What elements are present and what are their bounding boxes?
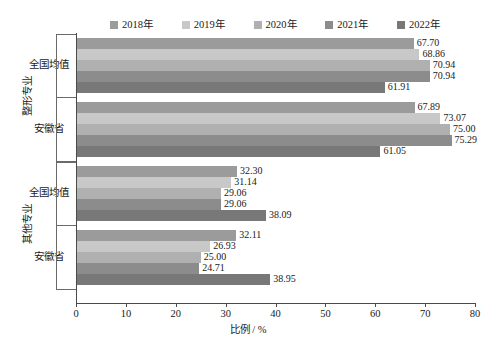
legend-swatch-icon: [397, 21, 405, 29]
super-group-bracket: [56, 162, 57, 289]
x-axis-tick-label: 0: [61, 309, 91, 320]
category-separator: [56, 97, 76, 98]
x-axis-tick-label: 50: [310, 309, 340, 320]
bar-2019年[interactable]: [76, 113, 440, 124]
bar-value-label: 68.86: [422, 49, 445, 59]
x-axis-tick: [226, 303, 227, 307]
bar-2019年[interactable]: [76, 241, 210, 252]
legend-swatch-icon: [325, 21, 333, 29]
legend-label: 2020年: [266, 20, 297, 31]
bar-row: 61.05: [76, 146, 475, 157]
bar-group: 32.3031.1429.0629.0638.09: [76, 166, 475, 221]
bar-value-label: 24.71: [202, 263, 225, 273]
bar-value-label: 67.89: [418, 102, 441, 112]
bar-row: 26.93: [76, 241, 475, 252]
bar-2019年[interactable]: [76, 177, 231, 188]
bar-value-label: 29.06: [224, 199, 247, 209]
legend-item-2022年[interactable]: 2022年: [397, 20, 440, 31]
x-axis-tick-label: 70: [410, 309, 440, 320]
bar-chart: 2018年2019年2020年2021年2022年 67.7068.8670.9…: [0, 0, 496, 345]
bar-2022年[interactable]: [76, 274, 270, 285]
bar-value-label: 38.95: [273, 274, 296, 284]
bar-row: 38.09: [76, 210, 475, 221]
legend-label: 2021年: [337, 20, 368, 31]
x-axis-tick-label: 10: [111, 309, 141, 320]
bar-2021年[interactable]: [76, 135, 452, 146]
bar-2018年[interactable]: [76, 166, 237, 177]
bar-row: 70.94: [76, 71, 475, 82]
x-axis-tick: [375, 303, 376, 307]
bar-2021年[interactable]: [76, 199, 221, 210]
x-axis-tick: [475, 303, 476, 307]
bar-row: 75.29: [76, 135, 475, 146]
bar-value-label: 31.14: [234, 177, 257, 187]
bar-2018年[interactable]: [76, 230, 236, 241]
bar-2018年[interactable]: [76, 38, 414, 49]
bar-row: 32.11: [76, 230, 475, 241]
x-axis-tick: [126, 303, 127, 307]
legend-item-2018年[interactable]: 2018年: [110, 20, 153, 31]
bar-2021年[interactable]: [76, 71, 430, 82]
legend-item-2020年[interactable]: 2020年: [254, 20, 297, 31]
bar-2020年[interactable]: [76, 252, 201, 263]
super-group-bracket: [56, 34, 57, 161]
bar-value-label: 75.29: [455, 135, 478, 145]
bar-2020年[interactable]: [76, 60, 430, 71]
bar-value-label: 61.05: [383, 146, 406, 156]
x-axis-tick: [176, 303, 177, 307]
bar-row: 73.07: [76, 113, 475, 124]
bar-value-label: 32.30: [240, 166, 263, 176]
y-axis-category-label: 安徽省: [24, 124, 74, 135]
bar-value-label: 32.11: [239, 230, 261, 240]
super-group-bracket-end: [56, 162, 76, 163]
bar-row: 61.91: [76, 82, 475, 93]
bar-row: 68.86: [76, 49, 475, 60]
legend-swatch-icon: [182, 21, 190, 29]
bar-row: 67.70: [76, 38, 475, 49]
x-axis-title: 比例 / %: [0, 325, 496, 336]
bar-row: 75.00: [76, 124, 475, 135]
legend-label: 2022年: [409, 20, 440, 31]
x-axis-tick-label: 80: [460, 309, 490, 320]
bar-value-label: 29.06: [224, 188, 247, 198]
x-axis-tick: [325, 303, 326, 307]
y-axis-group-label: 其他专业: [23, 197, 34, 253]
bar-row: 70.94: [76, 60, 475, 71]
legend-item-2021年[interactable]: 2021年: [325, 20, 368, 31]
x-axis-tick: [425, 303, 426, 307]
legend-label: 2018年: [122, 20, 153, 31]
bar-value-label: 25.00: [204, 252, 227, 262]
y-axis-category-label: 安徽省: [24, 252, 74, 263]
bar-value-label: 26.93: [213, 241, 236, 251]
bar-2022年[interactable]: [76, 82, 385, 93]
bar-row: 24.71: [76, 263, 475, 274]
bar-2022年[interactable]: [76, 210, 266, 221]
legend-swatch-icon: [254, 21, 262, 29]
chart-legend: 2018年2019年2020年2021年2022年: [110, 17, 440, 33]
legend-label: 2019年: [194, 20, 225, 31]
bar-row: 29.06: [76, 188, 475, 199]
bar-value-label: 73.07: [443, 113, 466, 123]
bar-group: 67.7068.8670.9470.9461.91: [76, 38, 475, 93]
x-axis-tick: [276, 303, 277, 307]
bar-2021年[interactable]: [76, 263, 199, 274]
legend-item-2019年[interactable]: 2019年: [182, 20, 225, 31]
x-axis-tick-label: 60: [360, 309, 390, 320]
bar-row: 32.30: [76, 166, 475, 177]
y-axis-group-label: 整形专业: [23, 69, 34, 125]
bar-2022年[interactable]: [76, 146, 380, 157]
y-axis-line: [76, 33, 77, 303]
bar-group: 67.8973.0775.0075.2961.05: [76, 102, 475, 157]
bar-2020年[interactable]: [76, 188, 221, 199]
bar-value-label: 67.70: [417, 38, 440, 48]
bar-2020年[interactable]: [76, 124, 450, 135]
bar-2019年[interactable]: [76, 49, 419, 60]
bar-row: 38.95: [76, 274, 475, 285]
bar-row: 31.14: [76, 177, 475, 188]
x-axis-tick-label: 40: [261, 309, 291, 320]
x-axis-tick-label: 30: [211, 309, 241, 320]
bar-2018年[interactable]: [76, 102, 415, 113]
x-axis-tick-label: 20: [161, 309, 191, 320]
bar-value-label: 61.91: [388, 82, 411, 92]
super-group-bracket-end: [56, 289, 76, 290]
